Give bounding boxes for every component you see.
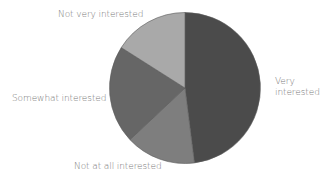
label-very-interested: Very interested <box>275 76 327 98</box>
label-somewhat-interested: Somewhat interested <box>12 93 106 104</box>
label-not-at-all-interested: Not at all interested <box>74 161 162 172</box>
label-not-very-interested: Not very interested <box>58 9 143 20</box>
pie-slices <box>110 13 261 164</box>
pie-slice-very-interested <box>185 13 260 163</box>
